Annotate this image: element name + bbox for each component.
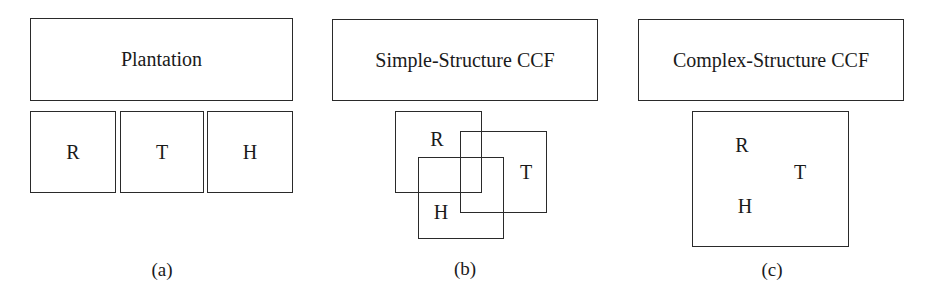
panel-a-caption: (a) [151, 259, 172, 281]
plantation-title-box: Plantation [30, 18, 293, 101]
simple-ccf-title-box: Simple-Structure CCF [332, 19, 598, 101]
panel-c-r-label: R [735, 134, 748, 157]
panel-a-t-label: T [156, 141, 168, 164]
simple-ccf-h-box [418, 157, 504, 239]
plantation-t-box: T [120, 111, 204, 193]
panel-b-t-label: T [520, 161, 532, 184]
panel-c-caption: (c) [761, 259, 782, 281]
panel-b-r-label: R [430, 128, 443, 151]
panel-b-h-label: H [434, 201, 448, 224]
panel-c-t-label: T [794, 161, 806, 184]
complex-ccf-title-box: Complex-Structure CCF [638, 19, 904, 101]
panel-b-title: Simple-Structure CCF [375, 49, 554, 72]
panel-a-r-label: R [66, 141, 79, 164]
panel-b-caption: (b) [454, 258, 476, 280]
panel-c-title: Complex-Structure CCF [673, 49, 869, 72]
panel-a-h-label: H [243, 141, 257, 164]
panel-a-title: Plantation [121, 48, 202, 71]
complex-ccf-mixed-box [692, 111, 849, 247]
plantation-h-box: H [207, 111, 293, 193]
panel-c-h-label: H [738, 195, 752, 218]
plantation-r-box: R [30, 111, 116, 193]
